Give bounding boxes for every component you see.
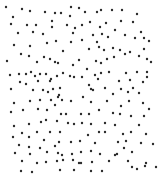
dot <box>113 56 115 58</box>
dot <box>62 50 64 52</box>
dot <box>130 115 132 117</box>
dot <box>81 24 83 26</box>
dot <box>61 99 63 101</box>
dot <box>13 44 15 46</box>
dot <box>148 40 150 42</box>
dot <box>44 11 46 13</box>
dot <box>91 161 93 163</box>
dot <box>94 74 96 76</box>
dot <box>10 23 12 25</box>
dot <box>101 170 103 172</box>
dot <box>127 91 129 93</box>
dot <box>120 88 122 90</box>
dot <box>56 75 58 77</box>
dot <box>18 73 20 75</box>
dot <box>142 81 144 83</box>
dot <box>65 113 67 115</box>
dot <box>69 75 71 77</box>
dot <box>80 162 82 164</box>
dot <box>22 109 24 111</box>
dot <box>131 166 133 168</box>
dot <box>124 53 126 55</box>
dot <box>71 153 73 155</box>
dot <box>143 115 145 117</box>
dot <box>90 123 92 125</box>
dot <box>43 139 45 141</box>
dot <box>10 88 12 90</box>
dot <box>54 61 56 63</box>
dot <box>136 13 138 15</box>
dot <box>37 108 39 110</box>
dot <box>104 122 106 124</box>
dot <box>70 6 72 8</box>
dot <box>50 99 52 101</box>
dot <box>98 109 100 111</box>
dot <box>54 12 56 14</box>
dot <box>45 73 47 75</box>
dot <box>143 37 145 39</box>
dots-canvas <box>0 0 159 183</box>
dot <box>81 122 83 124</box>
dot <box>73 123 75 125</box>
dot <box>57 152 59 154</box>
dot <box>101 33 103 35</box>
dot <box>146 76 148 78</box>
dot <box>73 169 75 171</box>
dot <box>28 136 30 138</box>
dot <box>46 151 48 153</box>
dot <box>32 31 34 33</box>
dot <box>132 21 134 23</box>
dot <box>145 133 147 135</box>
dot <box>107 36 109 38</box>
dot <box>61 154 63 156</box>
dot <box>120 105 122 107</box>
dot <box>82 96 84 98</box>
dot <box>45 161 47 163</box>
dot <box>6 60 8 62</box>
dot <box>70 41 72 43</box>
dot <box>67 122 69 124</box>
dot <box>92 34 94 36</box>
dot <box>54 145 56 147</box>
dot <box>98 131 100 133</box>
dot <box>45 119 47 121</box>
dot <box>70 100 72 102</box>
dot <box>97 78 99 80</box>
dot <box>18 144 20 146</box>
dot <box>12 16 14 18</box>
dot <box>81 39 83 41</box>
dot <box>35 24 37 26</box>
dot <box>34 75 36 77</box>
dot <box>28 146 30 148</box>
dot <box>66 24 68 26</box>
dot <box>25 73 27 75</box>
dot <box>29 10 31 12</box>
dot <box>81 76 83 78</box>
dot <box>140 31 142 33</box>
dot <box>21 8 23 10</box>
dot <box>90 170 92 172</box>
dot <box>80 113 82 115</box>
dot <box>28 55 30 57</box>
dot <box>114 29 116 31</box>
dot <box>88 84 90 86</box>
dot <box>59 131 61 133</box>
dot-field <box>0 0 159 183</box>
dot <box>118 80 120 82</box>
dot <box>129 79 131 81</box>
dot <box>111 9 113 11</box>
dot <box>86 68 88 70</box>
dot <box>57 96 59 98</box>
dot <box>136 71 138 73</box>
dot <box>40 121 42 123</box>
dot <box>122 133 124 135</box>
dot <box>138 124 140 126</box>
dot <box>36 131 38 133</box>
dot <box>28 123 30 125</box>
dot <box>21 132 23 134</box>
dot <box>72 32 74 34</box>
dot <box>119 113 121 115</box>
dot <box>49 80 51 82</box>
dot <box>29 100 31 102</box>
dot <box>14 152 16 154</box>
